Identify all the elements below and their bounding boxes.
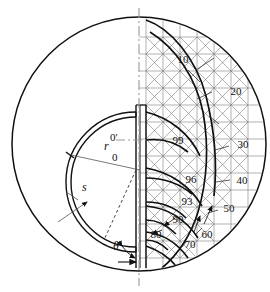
contour-label-10: 10 [178,53,190,65]
diagram-svg: r s θ 0' 0 10 20 30 40 50 60 70 80 90 93… [0,0,270,292]
thickness-label: s [82,180,87,194]
figure-canvas: r s θ 0' 0 10 20 30 40 50 60 70 80 90 93… [0,0,270,292]
canvas-background [0,0,270,292]
contour-label-50: 50 [224,202,236,214]
center-outer-label: 0 [112,151,118,163]
radius-label: r [104,139,109,153]
contour-label-93: 93 [182,195,194,207]
contour-label-60: 60 [202,228,214,240]
contour-label-90: 90 [173,213,185,225]
center-inner-label: 0' [110,131,118,143]
contour-label-30: 30 [238,138,250,150]
contour-label-80: 80 [151,228,163,240]
contour-label-40: 40 [237,174,249,186]
contour-label-20: 20 [231,85,243,97]
contour-label-99: 99 [173,134,185,146]
contour-label-70: 70 [185,238,197,250]
contour-label-96: 96 [186,173,198,185]
theta-label: θ [113,239,119,253]
